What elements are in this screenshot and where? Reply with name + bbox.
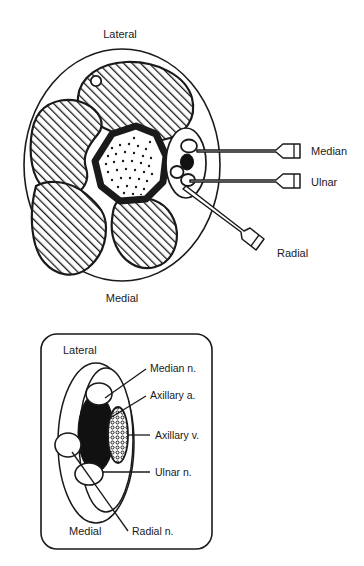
upper-medial-label: Medial	[106, 292, 138, 304]
lower-panel: Lateral Median n. Axillary a. Axillary v…	[41, 334, 212, 549]
median-nerve-circle-detail	[86, 383, 112, 405]
label-axillary-artery: Axillary a.	[150, 389, 196, 401]
lower-lateral-label: Lateral	[63, 344, 97, 356]
ulnar-nerve-circle-detail	[75, 463, 103, 485]
label-ulnar-nerve: Ulnar n.	[155, 466, 192, 478]
label-axillary-vein: Axillary v.	[155, 429, 199, 441]
radial-nerve-circle-detail	[55, 433, 81, 457]
label-median-nerve: Median n.	[150, 362, 196, 374]
median-nerve-circle-upper	[181, 140, 197, 153]
upper-panel: Lateral	[24, 28, 347, 304]
lower-medial-label: Medial	[69, 525, 101, 537]
label-radial-nerve: Radial n.	[132, 525, 173, 537]
upper-lateral-label: Lateral	[103, 28, 137, 40]
anatomy-figure: Lateral	[0, 0, 364, 566]
axillary-vein-stippled	[108, 407, 128, 463]
needle-radial-label: Radial	[277, 247, 308, 259]
needle-median-label: Median	[311, 145, 347, 157]
cephalic-vein	[91, 76, 101, 86]
needle-ulnar-label: Ulnar	[311, 176, 338, 188]
figure-root: Lateral	[0, 0, 364, 566]
